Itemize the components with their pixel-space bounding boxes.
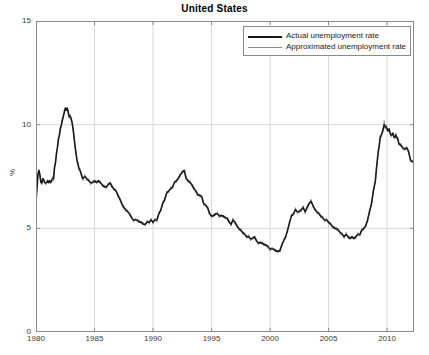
plot-svg — [36, 21, 414, 332]
y-tick-label: 10 — [0, 121, 31, 129]
x-tick-label: 1980 — [16, 335, 56, 343]
y-tick-label: 15 — [0, 17, 31, 25]
x-tick-label: 1985 — [75, 335, 115, 343]
plot-background — [36, 21, 414, 332]
plot-area — [36, 21, 414, 332]
legend-label-actual: Actual unemployment rate — [286, 31, 379, 40]
y-axis-label: % — [8, 163, 17, 183]
legend-label-approximated: Approximated unemployment rate — [286, 42, 406, 51]
legend-swatch-actual — [248, 31, 282, 41]
legend-item-actual: Actual unemployment rate — [248, 30, 406, 41]
chart-figure: United States % 198019851990199520002005… — [0, 0, 429, 355]
legend-swatch-approximated — [248, 42, 282, 52]
y-tick-label: 5 — [0, 224, 31, 232]
x-tick-label: 1995 — [192, 335, 232, 343]
x-tick-label: 2010 — [367, 335, 407, 343]
chart-title: United States — [0, 3, 429, 14]
x-tick-label: 2000 — [250, 335, 290, 343]
legend-item-approximated: Approximated unemployment rate — [248, 41, 406, 52]
y-tick-label: 0 — [0, 328, 31, 336]
chart-legend: Actual unemployment rate Approximated un… — [243, 26, 411, 56]
x-tick-label: 1990 — [133, 335, 173, 343]
x-tick-label: 2005 — [309, 335, 349, 343]
